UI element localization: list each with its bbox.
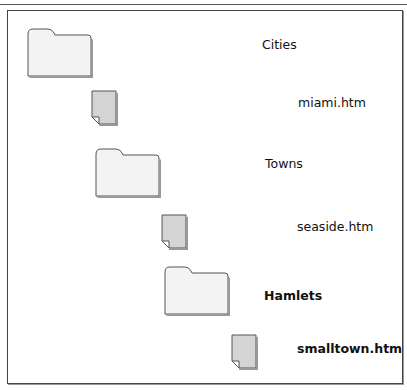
file-icon (161, 214, 189, 250)
folder-label-towns: Towns (265, 156, 303, 171)
folder-icon (24, 26, 94, 78)
folder-icon (92, 146, 162, 198)
file-label-smalltown: smalltown.htm (297, 341, 402, 356)
folder-label-cities: Cities (262, 37, 297, 52)
file-icon (231, 334, 259, 370)
file-label-seaside: seaside.htm (297, 219, 373, 234)
top-rule (0, 4, 407, 5)
file-label-miami: miami.htm (298, 95, 366, 110)
folder-icon (161, 264, 231, 316)
file-icon (91, 90, 119, 126)
folder-label-hamlets: Hamlets (264, 288, 322, 303)
